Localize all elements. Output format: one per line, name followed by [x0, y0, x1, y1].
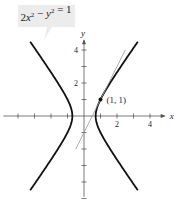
x-tick-label: 4 — [148, 120, 152, 129]
x-axis-label: x — [169, 111, 174, 121]
x-axis-arrow — [161, 114, 166, 118]
y-axis-label: y — [80, 28, 85, 38]
x-tick-label: 2 — [115, 120, 119, 129]
equation-callout: 2x2 − y2 = 1 — [18, 3, 75, 40]
chart: 2x2 − y2 = 1 xy2424 (1, 1) — [0, 0, 183, 204]
point-label: (1, 1) — [107, 95, 127, 105]
axes: xy2424 — [4, 28, 174, 198]
y-tick-label: 2 — [74, 79, 78, 88]
point-marker — [99, 98, 103, 102]
y-axis-arrow — [82, 39, 86, 44]
y-tick-label: 4 — [74, 46, 78, 55]
